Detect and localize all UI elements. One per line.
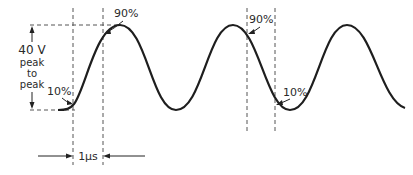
right-90-percent-annotation: 90% [248,13,273,34]
amplitude-label-line4: peak [20,79,45,90]
arrow-right-icon [66,154,73,159]
left-90-arrow-icon [104,29,111,34]
amplitude-label-line3: to [27,68,37,79]
arrow-up-icon [30,26,35,33]
amplitude-label-line2: peak [20,57,45,68]
amplitude-dimension: 40 V peak to peak [18,26,46,109]
left-10-percent-label: 10% [47,85,71,98]
waveform-curve [58,25,405,110]
left-90-percent-label: 90% [114,7,138,20]
arrow-down-icon [30,102,35,109]
arrow-left-icon [103,154,110,159]
amplitude-label-line1: 40 V [18,43,46,57]
left-10-percent-annotation: 10% [47,85,73,105]
waveform-diagram: 40 V peak to peak 10% 90% 90% 10% 1μs [0,0,413,175]
time-label: 1μs [78,150,98,163]
right-10-percent-label: 10% [283,86,307,99]
right-90-percent-label: 90% [249,13,273,26]
time-dimension: 1μs [38,150,145,163]
right-90-arrow-icon [248,29,255,34]
left-90-percent-annotation: 90% [104,7,138,34]
left-10-arrow-icon [67,100,73,105]
